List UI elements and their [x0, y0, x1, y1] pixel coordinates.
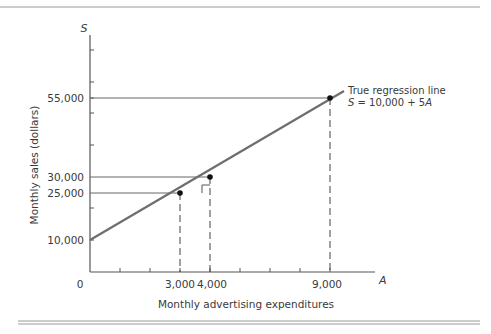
x-tick-9000: 9,000 [312, 278, 342, 290]
y-tick-30000: 30,000 [47, 171, 84, 183]
y-tick-25000: 25,000 [47, 187, 84, 199]
regression-line [90, 91, 344, 240]
data-point-9000 [327, 95, 333, 101]
x-tick-3000: 3,000 [165, 278, 195, 290]
origin-label: 0 [77, 278, 84, 290]
regression-line-label: True regression line [347, 85, 446, 96]
x-axis-title: Monthly advertising expenditures [158, 298, 334, 310]
data-point-4000 [207, 174, 213, 180]
regression-figure: S A 0 55,000 30,000 25,000 10,000 3,000 … [0, 0, 491, 334]
eq-mid: = 10,000 + 5 [354, 97, 425, 108]
eq-a: A [424, 97, 432, 108]
y-tick-10000: 10,000 [47, 234, 84, 246]
data-point-3000 [177, 190, 183, 196]
y-tick-55000: 55,000 [47, 92, 84, 104]
y-axis-variable: S [81, 22, 88, 35]
x-axis-variable: A [378, 274, 387, 287]
regression-equation: S = 10,000 + 5A [348, 97, 432, 108]
right-angle-marker [202, 185, 210, 193]
x-tick-4000: 4,000 [197, 278, 227, 290]
y-axis-title: Monthly sales (dollars) [28, 106, 40, 225]
